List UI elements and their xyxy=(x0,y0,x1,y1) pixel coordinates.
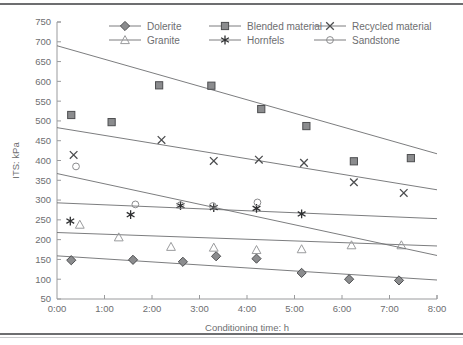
legend-item-hornfels[interactable]: Hornfels xyxy=(209,35,284,46)
bottom-divider-rule xyxy=(0,333,463,335)
data-point xyxy=(400,189,408,197)
marker-diamond xyxy=(212,252,221,261)
marker-square xyxy=(108,119,115,126)
data-point xyxy=(156,82,163,89)
data-point xyxy=(70,151,78,159)
series-blended-material xyxy=(57,46,437,165)
data-point xyxy=(298,210,306,219)
data-point xyxy=(209,243,218,251)
y-tick-label: 150 xyxy=(35,254,51,265)
data-point xyxy=(132,201,139,208)
data-point xyxy=(345,275,354,284)
legend-label: Hornfels xyxy=(247,35,284,46)
marker-diamond xyxy=(252,254,261,263)
data-point xyxy=(212,252,221,261)
data-point xyxy=(350,158,357,165)
chart-axes: 5010015020025030035040045050055060065070… xyxy=(35,16,446,314)
legend-label: Granite xyxy=(147,35,180,46)
chart-series-layer xyxy=(57,46,437,285)
marker-x xyxy=(400,189,408,197)
data-point xyxy=(178,257,187,266)
marker-square xyxy=(303,122,310,129)
marker-square xyxy=(156,82,163,89)
y-tick-label: 400 xyxy=(35,155,51,166)
y-tick-label: 500 xyxy=(35,115,51,126)
data-point xyxy=(73,163,80,170)
series-dolerite xyxy=(57,252,437,285)
marker-diamond xyxy=(345,275,354,284)
trendline xyxy=(57,174,437,256)
data-point xyxy=(210,157,218,165)
y-tick-label: 600 xyxy=(35,76,51,87)
marker-triangle xyxy=(167,242,176,250)
data-point xyxy=(347,241,356,249)
x-tick-label: 1:00 xyxy=(95,303,114,314)
legend-item-granite[interactable]: Granite xyxy=(109,35,180,46)
top-divider-rule xyxy=(0,3,463,5)
data-point xyxy=(66,217,74,226)
marker-x xyxy=(255,156,263,164)
trendline xyxy=(57,256,437,280)
axis-lines xyxy=(57,22,437,299)
trendline xyxy=(57,203,437,219)
x-tick-label: 8:00 xyxy=(428,303,447,314)
marker-diamond xyxy=(178,257,187,266)
its-vs-conditioning-time-scatter-chart: DoleriteBlended materialRecycled materia… xyxy=(0,6,463,332)
marker-asterisk xyxy=(127,210,135,219)
marker-x xyxy=(300,159,308,167)
marker-triangle xyxy=(252,246,261,254)
x-axis-title: Conditioning time: h xyxy=(205,322,289,332)
marker-circle xyxy=(73,163,80,170)
marker-triangle xyxy=(347,241,356,249)
data-point xyxy=(297,268,306,277)
data-point xyxy=(258,105,265,112)
x-tick-label: 3:00 xyxy=(190,303,209,314)
y-tick-label: 250 xyxy=(35,214,51,225)
marker-diamond xyxy=(297,268,306,277)
data-point xyxy=(158,136,166,144)
marker-diamond xyxy=(128,255,137,264)
marker-square xyxy=(258,105,265,112)
marker-triangle xyxy=(75,220,84,228)
x-tick-label: 2:00 xyxy=(143,303,162,314)
marker-asterisk xyxy=(298,210,306,219)
data-point xyxy=(75,220,84,228)
data-point xyxy=(255,156,263,164)
y-axis-title: ITS: kPa xyxy=(10,142,21,179)
trendline xyxy=(57,233,437,246)
y-tick-label: 450 xyxy=(35,135,51,146)
marker-triangle xyxy=(209,243,218,251)
x-tick-label: 7:00 xyxy=(380,303,399,314)
legend-label: Dolerite xyxy=(147,21,182,32)
data-point xyxy=(68,111,75,118)
data-point xyxy=(128,255,137,264)
y-tick-label: 350 xyxy=(35,175,51,186)
chart-figure: DoleriteBlended materialRecycled materia… xyxy=(0,6,463,332)
y-tick-label: 650 xyxy=(35,56,51,67)
marker-diamond xyxy=(120,21,129,30)
data-point xyxy=(252,254,261,263)
y-tick-label: 200 xyxy=(35,234,51,245)
marker-triangle xyxy=(114,233,123,241)
data-point xyxy=(254,199,261,206)
bottom-divider-rule-secondary xyxy=(0,337,463,338)
data-point xyxy=(108,119,115,126)
y-tick-label: 300 xyxy=(35,194,51,205)
legend-label: Blended material xyxy=(247,21,322,32)
marker-x xyxy=(158,136,166,144)
marker-x xyxy=(350,178,358,186)
data-point xyxy=(127,210,135,219)
legend-item-recycled-material[interactable]: Recycled material xyxy=(314,21,431,32)
legend-item-blended-material[interactable]: Blended material xyxy=(209,21,322,32)
series-hornfels xyxy=(57,201,437,225)
marker-circle xyxy=(254,199,261,206)
chart-legend: DoleriteBlended materialRecycled materia… xyxy=(109,21,431,46)
marker-square xyxy=(68,111,75,118)
legend-item-dolerite[interactable]: Dolerite xyxy=(109,21,182,32)
legend-item-sandstone[interactable]: Sandstone xyxy=(314,35,400,46)
x-tick-label: 4:00 xyxy=(238,303,257,314)
data-point xyxy=(114,233,123,241)
y-tick-label: 700 xyxy=(35,36,51,47)
trendline xyxy=(57,128,437,190)
marker-square xyxy=(221,22,228,29)
